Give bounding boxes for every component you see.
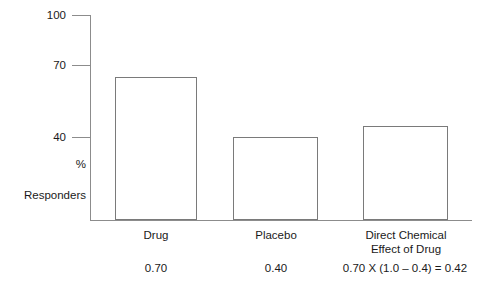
x-label-drug: Drug: [106, 228, 206, 242]
x-label-placebo: Placebo: [226, 228, 326, 242]
value-label-placebo: 0.40: [226, 261, 326, 275]
x-label-line2: Effect of Drug: [346, 242, 466, 256]
x-label-line1: Direct Chemical: [346, 228, 466, 242]
y-axis-line: [90, 15, 91, 220]
bar-placebo: [233, 137, 318, 220]
bar-drug: [115, 77, 197, 221]
value-label-direct-chemical-effect: 0.70 X (1.0 – 0.4) = 0.42: [316, 261, 494, 275]
y-tick-100: [72, 15, 90, 16]
x-label-direct-chemical-effect: Direct Chemical Effect of Drug: [346, 228, 466, 256]
x-axis-line: [90, 220, 472, 221]
y-tick-label-100: 100: [6, 9, 66, 21]
y-tick-label-40: 40: [6, 131, 66, 143]
y-axis-label-responders: Responders: [4, 189, 86, 202]
y-axis-label-percent: %: [4, 158, 86, 171]
y-tick-40: [72, 137, 90, 138]
value-label-drug: 0.70: [106, 261, 206, 275]
y-tick-70: [72, 65, 90, 66]
bar-direct-chemical-effect: [363, 126, 448, 220]
y-tick-label-70: 70: [6, 59, 66, 71]
bar-chart-figure: 100 70 40 % Responders Drug Placebo Dire…: [0, 0, 494, 289]
